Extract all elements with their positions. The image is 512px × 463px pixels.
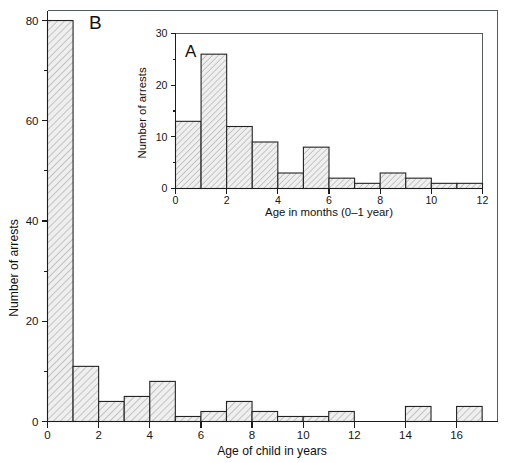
x-ticklabel: 2 xyxy=(95,429,101,441)
bar xyxy=(150,381,176,421)
panel-b-y-ticklabels: 020406080 xyxy=(26,15,39,428)
bar xyxy=(175,416,201,421)
bar xyxy=(99,401,125,421)
x-ticklabel: 0 xyxy=(44,429,50,441)
panel-a-y-ticklabels: 0102030 xyxy=(156,27,168,194)
panel-b-y-ticks xyxy=(42,21,48,422)
bar xyxy=(252,142,278,189)
panel-a-x-ticklabels: 024681012 xyxy=(173,194,489,206)
bar xyxy=(278,416,304,421)
x-ticklabel: 16 xyxy=(450,429,463,441)
x-ticklabel: 12 xyxy=(348,429,361,441)
x-ticklabel: 10 xyxy=(297,429,310,441)
x-ticklabel: 0 xyxy=(173,194,179,206)
panel-a-letter: A xyxy=(185,42,197,61)
bar xyxy=(226,401,252,421)
bar xyxy=(431,183,457,188)
bar xyxy=(252,411,278,421)
x-ticklabel: 12 xyxy=(477,194,489,206)
bar xyxy=(48,21,74,422)
bar xyxy=(406,178,432,188)
bar xyxy=(124,396,150,421)
bar xyxy=(176,121,202,188)
y-ticklabel: 40 xyxy=(26,215,39,227)
panel-a-ylabel: Number of arrests xyxy=(136,67,148,158)
panel-b-ylabel: Number of arrests xyxy=(7,219,21,317)
x-ticklabel: 8 xyxy=(249,429,255,441)
bar xyxy=(380,173,406,189)
y-ticklabel: 30 xyxy=(156,27,168,39)
panel-b-xlabel: Age of child in years xyxy=(217,444,327,458)
bar xyxy=(457,406,483,421)
bar xyxy=(457,183,483,188)
x-ticklabel: 8 xyxy=(377,194,383,206)
bar xyxy=(227,127,253,189)
bar xyxy=(201,54,227,188)
panel-a-inset: 0102030 024681012 Number of arrests Age … xyxy=(136,27,488,218)
panel-b-x-ticklabels: 0246810121416 xyxy=(44,429,463,441)
x-ticklabel: 10 xyxy=(425,194,437,206)
y-ticklabel: 0 xyxy=(32,416,38,428)
figure-container: 020406080 0246810121416 Number of arrest… xyxy=(0,0,512,463)
bar xyxy=(355,183,381,188)
bar xyxy=(405,406,431,421)
bar xyxy=(73,366,99,421)
x-ticklabel: 2 xyxy=(224,194,230,206)
y-ticklabel: 10 xyxy=(156,131,168,143)
bar xyxy=(303,416,329,421)
y-ticklabel: 60 xyxy=(26,115,39,127)
y-ticklabel: 20 xyxy=(26,315,39,327)
panel-b-letter: B xyxy=(89,12,102,33)
bar xyxy=(201,411,227,421)
x-ticklabel: 4 xyxy=(147,429,154,441)
y-ticklabel: 80 xyxy=(26,15,39,27)
bar xyxy=(278,173,304,189)
y-ticklabel: 20 xyxy=(156,79,168,91)
x-ticklabel: 14 xyxy=(399,429,412,441)
panel-b-x-ticks xyxy=(48,422,457,428)
y-ticklabel: 0 xyxy=(162,182,168,194)
x-ticklabel: 4 xyxy=(275,194,281,206)
panel-a-xlabel: Age in months (0–1 year) xyxy=(265,206,393,218)
bar xyxy=(303,147,329,188)
x-ticklabel: 6 xyxy=(326,194,332,206)
x-ticklabel: 6 xyxy=(198,429,204,441)
bar xyxy=(329,411,355,421)
arrest-histogram-figure: 020406080 0246810121416 Number of arrest… xyxy=(0,0,512,463)
bar xyxy=(329,178,355,188)
